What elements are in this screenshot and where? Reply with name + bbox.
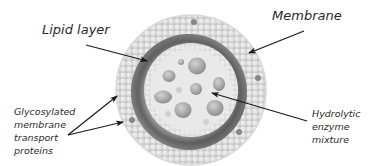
- lysosome-diagram: Lipid layer Membrane Glycosylated membra…: [0, 0, 373, 166]
- label-lipid-layer: Lipid layer: [42, 22, 110, 37]
- label-line: membrane: [14, 118, 75, 131]
- label-line: proteins: [14, 144, 75, 157]
- arrow-membrane: [249, 31, 304, 53]
- label-line: Glycosylated: [14, 105, 75, 118]
- label-line: mixture: [312, 133, 360, 146]
- label-line: transport: [14, 131, 75, 144]
- label-membrane: Membrane: [272, 8, 342, 23]
- label-glycosylated-proteins: Glycosylated membrane transport proteins: [14, 105, 75, 157]
- label-line: enzyme: [312, 120, 360, 133]
- label-hydrolytic-enzyme: Hydrolytic enzyme mixture: [312, 107, 360, 146]
- label-line: Hydrolytic: [312, 107, 360, 120]
